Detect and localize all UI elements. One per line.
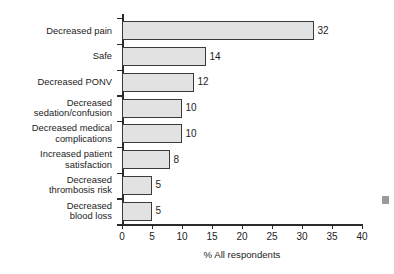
x-axis-tick-label: 30 bbox=[287, 231, 317, 243]
x-axis-tick bbox=[212, 224, 213, 229]
x-axis-tick bbox=[182, 224, 183, 229]
x-axis-tick bbox=[152, 224, 153, 229]
bar-value-label: 5 bbox=[156, 179, 162, 190]
bar-value-label: 14 bbox=[210, 51, 221, 62]
category-label: Decreased pain bbox=[0, 26, 117, 36]
x-axis-tick bbox=[302, 224, 303, 229]
y-axis-tick bbox=[117, 44, 122, 45]
bar-value-label: 12 bbox=[198, 76, 209, 87]
bar bbox=[122, 202, 152, 221]
bar bbox=[122, 99, 182, 118]
bar-value-label: 8 bbox=[174, 154, 180, 165]
bar-value-label: 10 bbox=[186, 128, 197, 139]
bar bbox=[122, 150, 170, 169]
x-axis-tick-label: 35 bbox=[317, 231, 347, 243]
category-label: Decreased thrombosis risk bbox=[0, 175, 117, 196]
y-axis-tick bbox=[117, 198, 122, 199]
x-axis-tick-label: 40 bbox=[347, 231, 377, 243]
x-axis-line bbox=[117, 224, 363, 226]
bar bbox=[122, 47, 206, 66]
scan-artifact-square bbox=[382, 196, 389, 204]
x-axis-tick-label: 0 bbox=[107, 231, 137, 243]
bar bbox=[122, 176, 152, 195]
x-axis-tick-label: 10 bbox=[167, 231, 197, 243]
bar-value-label: 5 bbox=[156, 205, 162, 216]
bar-value-label: 32 bbox=[318, 25, 329, 36]
bar-chart: Decreased painSafeDecreased PONVDecrease… bbox=[0, 0, 394, 274]
bar bbox=[122, 124, 182, 143]
y-axis-tick bbox=[117, 70, 122, 71]
category-label: Decreased medical complications bbox=[0, 123, 117, 144]
bar bbox=[122, 21, 314, 40]
bar bbox=[122, 73, 194, 92]
x-axis-tick bbox=[272, 224, 273, 229]
y-axis-tick bbox=[117, 95, 122, 96]
category-label: Safe bbox=[0, 51, 117, 61]
y-axis-tick bbox=[117, 121, 122, 122]
x-axis-tick-label: 25 bbox=[257, 231, 287, 243]
x-axis-title: % All respondents bbox=[122, 249, 362, 260]
x-axis-tick bbox=[332, 224, 333, 229]
y-axis-tick bbox=[117, 173, 122, 174]
plot-area: 3214121010855 0510152025303540 bbox=[122, 18, 362, 224]
y-axis-tick bbox=[117, 18, 122, 19]
category-label: Decreased sedation/confusion bbox=[0, 98, 117, 119]
x-axis-tick-label: 15 bbox=[197, 231, 227, 243]
x-axis-tick bbox=[242, 224, 243, 229]
x-axis-tick bbox=[362, 224, 363, 229]
bar-value-label: 10 bbox=[186, 102, 197, 113]
category-label: Decreased blood loss bbox=[0, 201, 117, 222]
category-label: Decreased PONV bbox=[0, 77, 117, 87]
x-axis-tick-label: 5 bbox=[137, 231, 167, 243]
category-label: Increased patient satisfaction bbox=[0, 149, 117, 170]
x-axis-tick-label: 20 bbox=[227, 231, 257, 243]
y-axis-tick bbox=[117, 147, 122, 148]
x-axis-tick bbox=[122, 224, 123, 229]
